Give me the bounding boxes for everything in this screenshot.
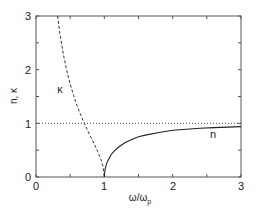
x-axis-label: ω/ωp	[129, 192, 151, 206]
n-label: n	[210, 128, 216, 140]
x-tick-2: 2	[170, 180, 176, 192]
refractive-index-chart: 0 1 2 3 0 1 2 3 ω/ωp n, κ κ n	[0, 0, 256, 211]
y-tick-1: 1	[25, 118, 31, 130]
axis-ticks	[36, 16, 241, 177]
y-tick-0: 0	[25, 171, 31, 183]
x-tick-3: 3	[238, 180, 244, 192]
y-tick-2: 2	[25, 64, 31, 76]
x-tick-1: 1	[101, 180, 107, 192]
y-tick-3: 3	[25, 10, 31, 22]
n-curve	[104, 127, 241, 177]
plot-frame	[36, 16, 241, 177]
kappa-label: κ	[57, 83, 63, 95]
y-axis-label: n, κ	[8, 87, 19, 104]
x-tick-0: 0	[33, 180, 39, 192]
kappa-curve	[58, 16, 105, 177]
